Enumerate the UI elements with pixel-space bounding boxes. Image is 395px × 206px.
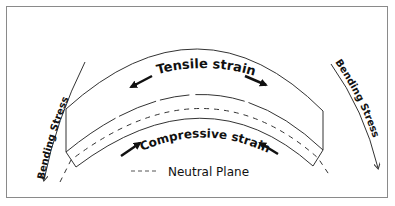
bending-stress-right-label: Bending Stress (333, 57, 381, 139)
tensile-arrow-right (245, 76, 266, 85)
tensile-strain-label: Tensile strain (155, 56, 258, 79)
compressive-arrow-left (121, 143, 140, 156)
left-edge (66, 109, 76, 167)
compressive-strain-label: Compressive strain (138, 126, 273, 155)
bending-stress-left-arrow (44, 62, 85, 180)
bending-stress-left-label: Bending Stress (35, 95, 70, 181)
inner-arc (76, 118, 313, 167)
legend-neutral-plane-label: Neutral Plane (168, 165, 249, 179)
tensile-arrow-left (131, 76, 152, 87)
bending-diagram: Bending Stress Bending Stress Tensile st… (0, 0, 395, 206)
upper-middle-arc (66, 94, 323, 152)
right-edge (313, 111, 323, 166)
